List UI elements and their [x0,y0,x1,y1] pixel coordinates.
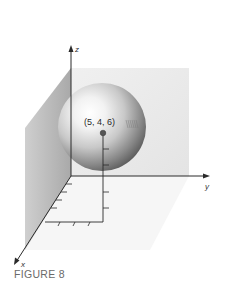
figure-caption: FIGURE 8 [14,268,65,280]
y-axis-label: y [204,182,210,191]
center-point-label: (5, 4, 6) [84,117,115,127]
z-axis-label: z [74,45,79,54]
center-point [100,130,106,136]
sphere-diagram: z y x (5, 4, 6) [0,0,226,294]
